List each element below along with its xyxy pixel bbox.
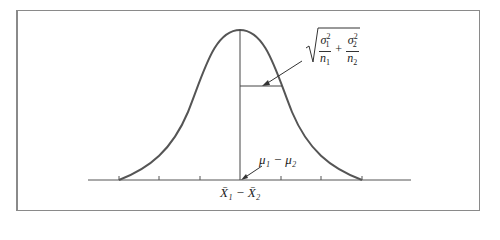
arrowhead-icon — [241, 174, 248, 180]
std-error-arrow — [266, 61, 302, 84]
mean-difference-label: μ₁ − μ₂ — [259, 152, 296, 168]
std-error-formula: σ21 n1 + σ22 n2 — [318, 30, 359, 70]
x-axis-label: X̄₁ − X̄₂ — [220, 185, 260, 201]
arrowhead-icon — [262, 80, 270, 86]
